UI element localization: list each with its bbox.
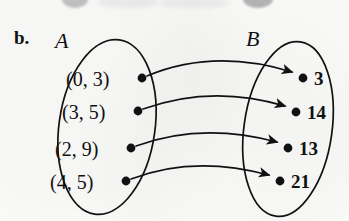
set-a-element-label: (4, 5) xyxy=(50,172,93,192)
set-b-element-label: 14 xyxy=(307,103,326,122)
set-b-element-dot xyxy=(284,144,293,153)
set-b-element-label: 13 xyxy=(299,139,318,158)
mapping-diagram-figure: b. A B (0, 3)(3, 5)(2, 9)(4, 5)3141321 xyxy=(0,0,349,221)
set-b-ellipse xyxy=(232,36,344,221)
set-a-element-label: (2, 9) xyxy=(55,139,98,159)
mapping-arrow xyxy=(147,61,292,76)
mapping-arrow xyxy=(131,166,269,179)
set-a-element-dot xyxy=(134,107,143,116)
set-a-element-dot xyxy=(122,177,131,186)
set-b-element-dot xyxy=(276,177,285,186)
mapping-arrow xyxy=(143,96,285,109)
set-a-element-label: (0, 3) xyxy=(66,69,109,89)
set-a-element-dot xyxy=(138,74,147,83)
mapping-arrow xyxy=(136,133,277,146)
set-b-element-dot xyxy=(292,108,301,117)
set-b-element-label: 21 xyxy=(291,172,310,191)
set-a-element-label: (3, 5) xyxy=(62,102,105,122)
set-a-element-dot xyxy=(127,144,136,153)
set-b-element-label: 3 xyxy=(314,69,324,88)
set-b-element-dot xyxy=(299,74,308,83)
